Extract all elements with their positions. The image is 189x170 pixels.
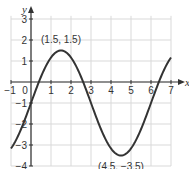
y-axis-arrow-icon	[28, 6, 34, 13]
y-axis-label: y	[21, 3, 27, 15]
x-tick-label: 7	[168, 85, 174, 96]
min-point-label: (4.5, −3.5)	[98, 161, 144, 170]
y-tick-label: 1	[21, 56, 27, 67]
x-tick-label: 4	[108, 85, 114, 96]
x-tick-label: 0	[22, 85, 28, 96]
y-tick-label: 3	[21, 14, 27, 25]
x-axis-label: x	[184, 76, 189, 88]
tick-labels: −101234567321−1−2−3−4	[4, 14, 174, 169]
x-tick-label: 1	[48, 85, 54, 96]
x-tick-label: 2	[68, 85, 74, 96]
y-tick-label: 2	[21, 35, 27, 46]
x-tick-label: −1	[4, 85, 16, 96]
y-tick-label: −1	[16, 98, 28, 109]
y-tick-label: −3	[16, 140, 28, 151]
y-tick-label: −4	[16, 161, 28, 169]
max-point-label: (1.5, 1.5)	[41, 34, 81, 45]
x-axis-arrow-icon	[178, 79, 185, 85]
sine-chart: −101234567321−1−2−3−4 x y (1.5, 1.5) (4.…	[0, 0, 189, 169]
x-tick-label: 5	[128, 85, 134, 96]
x-tick-label: 3	[88, 85, 94, 96]
